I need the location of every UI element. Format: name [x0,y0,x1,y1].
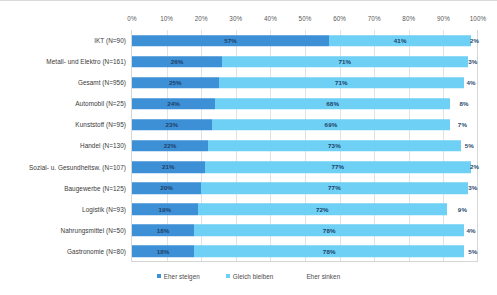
bar-segment-fall: 3% [468,56,478,68]
segment-value-label: 20% [160,185,173,192]
bar-track: 18%78%5% [132,246,478,258]
bar-segment-rise: 21% [132,161,205,173]
bar-segment-rise: 24% [132,98,215,110]
x-tick-label: 10% [160,15,173,22]
segment-value-label: 8% [460,100,469,107]
chart-row: Gastronomie (N=80)18%78%5% [0,241,497,262]
segment-value-label: 3% [468,58,477,65]
legend-item[interactable]: Eher steigen [157,273,200,280]
bar-segment-same: 77% [201,182,467,194]
legend-item[interactable]: Eher sinken [299,273,340,280]
legend-item[interactable]: Gleich bleiben [226,273,274,280]
stacked-bar-chart: 0%10%20%30%40%50%60%70%80%90%100% IKT (N… [0,0,497,295]
segment-value-label: 73% [328,142,341,149]
x-tick-label: 40% [264,15,277,22]
segment-value-label: 57% [224,37,237,44]
bar-track: 26%71%3% [132,56,478,68]
x-tick-label: 100% [470,15,487,22]
bar-segment-fall: 2% [471,161,478,173]
segment-value-label: 5% [468,248,477,255]
bar-segment-rise: 57% [132,35,329,47]
bar-segment-rise: 22% [132,140,208,152]
segment-value-label: 18% [157,227,170,234]
x-tick-label: 70% [368,15,381,22]
bar-segment-fall: 5% [461,140,478,152]
bar-segment-same: 78% [194,246,464,258]
segment-value-label: 3% [468,185,477,192]
category-label: Gesamt (N=956) [2,79,126,86]
chart-row: Sozial- u. Gesundheitsw. (N=107)21%77%2% [0,157,497,178]
legend-label: Gleich bleiben [233,273,274,280]
x-tick-label: 60% [333,15,346,22]
segment-value-label: 2% [470,164,479,171]
bar-track: 25%71%4% [132,77,478,89]
segment-value-label: 21% [162,164,175,171]
x-tick-label: 30% [229,15,242,22]
bar-segment-same: 71% [222,56,468,68]
bar-segment-fall: 2% [471,35,478,47]
category-label: IKT (N=90) [2,37,126,44]
x-tick-label: 80% [402,15,415,22]
bar-segment-same: 69% [212,119,451,131]
legend-swatch-icon [157,274,161,278]
bar-segment-fall: 3% [468,182,478,194]
segment-value-label: 9% [458,206,467,213]
chart-row: Baugewerbe (N=125)20%77%3% [0,178,497,199]
bar-segment-same: 71% [219,77,465,89]
category-label: Nahrungsmittel (N=50) [2,227,126,234]
bar-track: 23%69%7% [132,119,478,131]
legend-label: Eher sinken [306,273,340,280]
chart-row: Logistik (N=93)19%72%9% [0,199,497,220]
chart-row: Automobil (N=25)24%68%8% [0,93,497,114]
category-label: Logistik (N=93) [2,206,126,213]
x-tick-label: 0% [127,15,136,22]
bar-segment-rise: 18% [132,225,194,237]
segment-value-label: 68% [326,100,339,107]
chart-row: IKT (N=90)57%41%2% [0,30,497,51]
segment-value-label: 18% [157,248,170,255]
bar-track: 21%77%2% [132,161,478,173]
bar-segment-same: 41% [329,35,471,47]
bar-track: 20%77%3% [132,182,478,194]
bar-track: 19%72%9% [132,204,478,216]
segment-value-label: 26% [171,58,184,65]
bar-segment-rise: 26% [132,56,222,68]
category-label: Metall- und Elektro (N=161) [2,58,126,65]
segment-value-label: 24% [167,100,180,107]
bar-rows: IKT (N=90)57%41%2%Metall- und Elektro (N… [0,30,497,262]
bar-segment-fall: 8% [450,98,478,110]
segment-value-label: 25% [169,79,182,86]
bar-segment-fall: 7% [450,119,474,131]
bar-segment-same: 78% [194,225,464,237]
segment-value-label: 41% [394,37,407,44]
chart-row: Metall- und Elektro (N=161)26%71%3% [0,51,497,72]
category-label: Handel (N=130) [2,142,126,149]
category-label: Gastronomie (N=80) [2,248,126,255]
bar-segment-rise: 23% [132,119,212,131]
segment-value-label: 69% [325,121,338,128]
chart-row: Handel (N=130)22%73%5% [0,135,497,156]
bar-track: 57%41%2% [132,35,478,47]
bar-segment-same: 77% [205,161,471,173]
x-tick-label: 20% [195,15,208,22]
category-label: Kunststoff (N=95) [2,121,126,128]
category-label: Automobil (N=25) [2,100,126,107]
segment-value-label: 71% [338,58,351,65]
category-label: Sozial- u. Gesundheitsw. (N=107) [2,164,126,171]
segment-value-label: 2% [470,37,479,44]
legend-swatch-icon [226,274,230,278]
chart-row: Kunststoff (N=95)23%69%7% [0,114,497,135]
segment-value-label: 77% [332,164,345,171]
bar-segment-fall: 5% [464,246,481,258]
segment-value-label: 7% [458,121,467,128]
bar-segment-fall: 9% [447,204,478,216]
bar-segment-fall: 4% [464,225,478,237]
bar-segment-fall: 4% [464,77,478,89]
segment-value-label: 77% [328,185,341,192]
x-tick-label: 90% [437,15,450,22]
segment-value-label: 71% [335,79,348,86]
segment-value-label: 78% [323,248,336,255]
legend-label: Eher steigen [164,273,200,280]
segment-value-label: 5% [465,142,474,149]
legend-swatch-icon [299,274,303,278]
